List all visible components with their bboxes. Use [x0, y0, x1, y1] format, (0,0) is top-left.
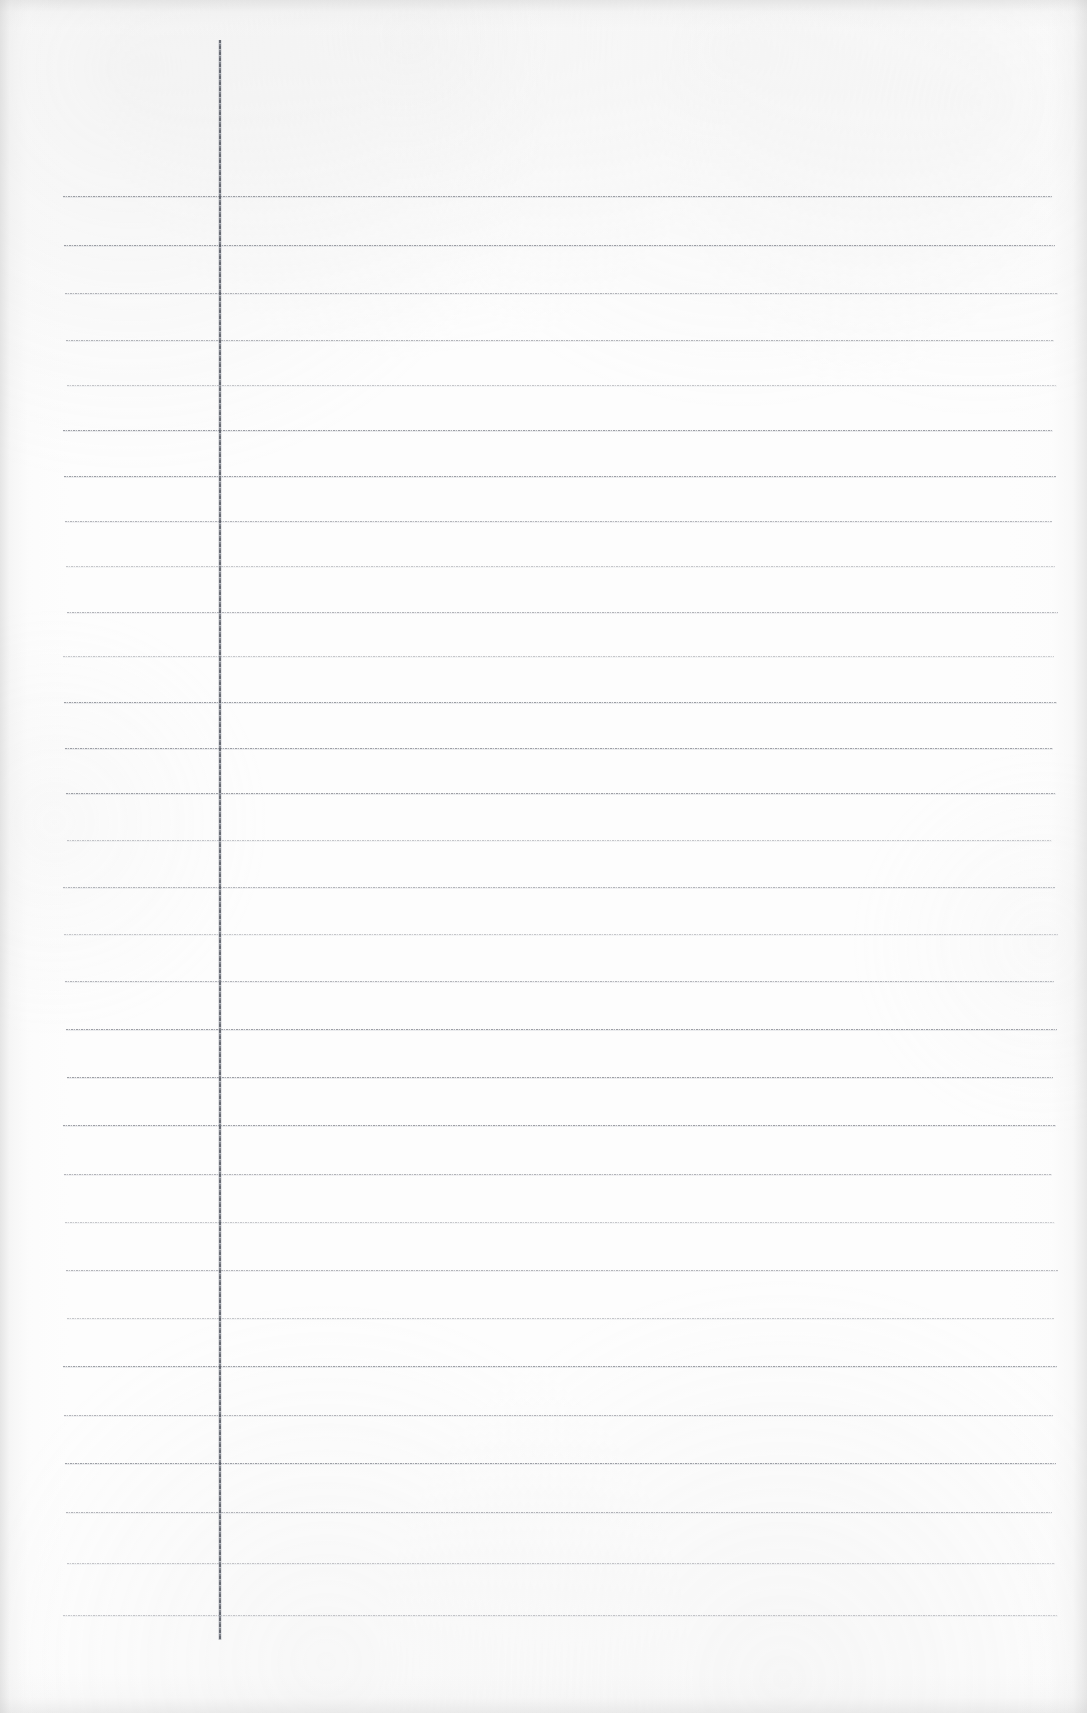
scanned-page: [0, 0, 1087, 1713]
paper-background: [0, 0, 1087, 1713]
